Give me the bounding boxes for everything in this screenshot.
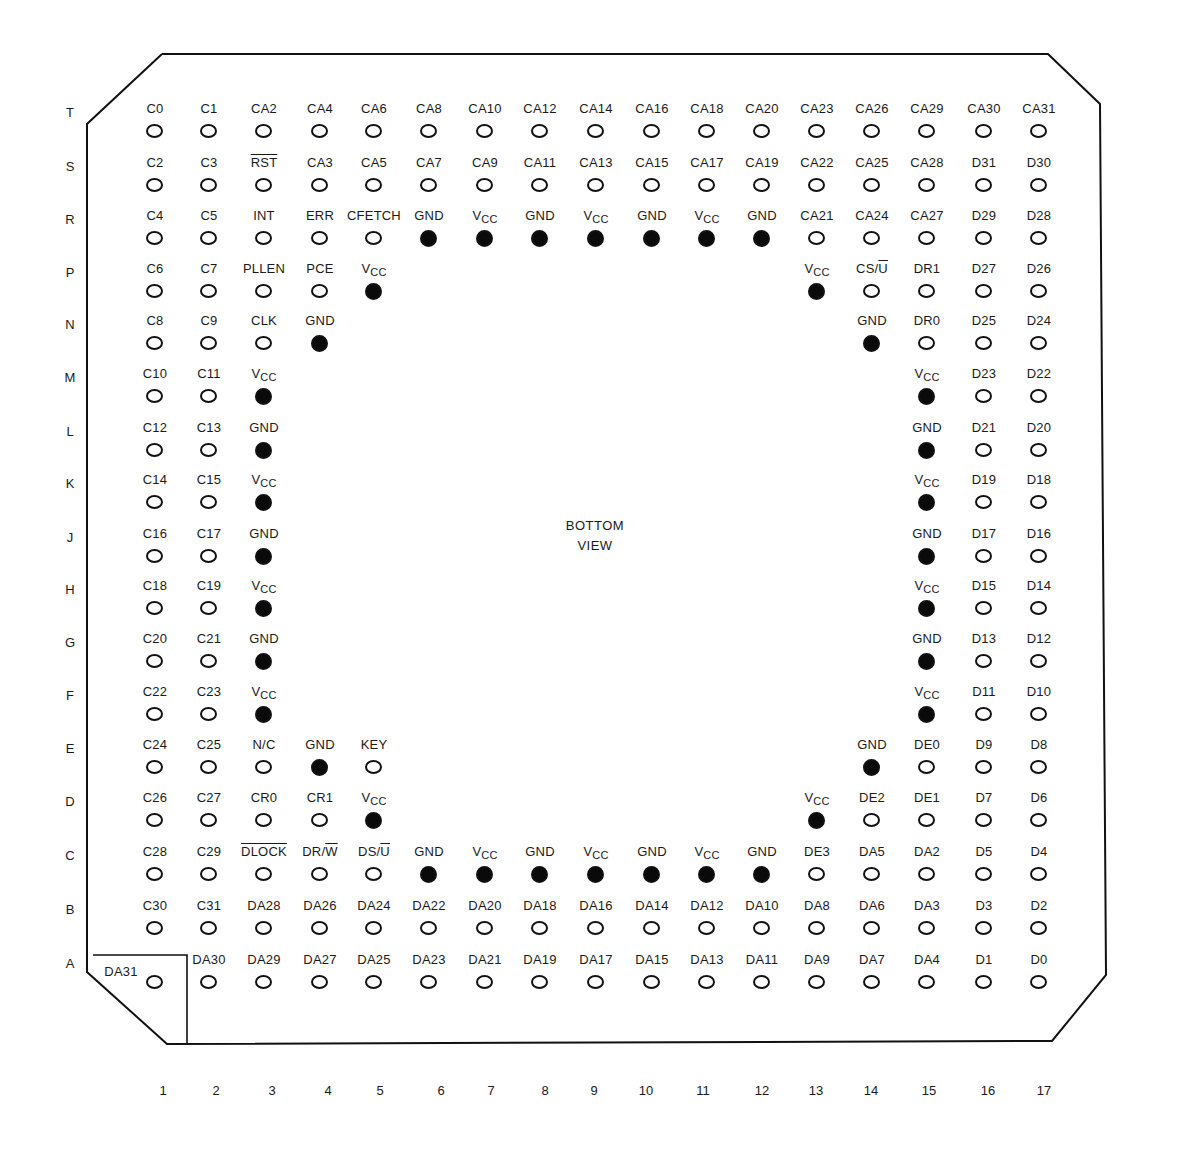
pin-f3: VCC: [236, 684, 292, 734]
pin-p3: PLLEN: [236, 261, 292, 311]
open-circle-icon: [753, 124, 770, 138]
pin-h16: D15: [956, 578, 1012, 628]
pin-k17: D18: [1011, 472, 1067, 522]
pin-j15: GND: [899, 526, 955, 576]
pin-h17: D14: [1011, 578, 1067, 628]
pin-s14: CA25: [844, 155, 900, 205]
pin-e4: GND: [292, 737, 348, 787]
open-circle-icon: [420, 178, 437, 192]
pin-label: CA14: [568, 101, 624, 117]
pin-label: CR0: [236, 790, 292, 806]
pin-d13: VCC: [789, 790, 845, 840]
pin-r11: VCC: [679, 208, 735, 258]
pin-label: C4: [127, 208, 183, 224]
row-label-a: A: [60, 956, 80, 971]
open-circle-icon: [311, 284, 328, 298]
pin-label: VCC: [789, 261, 845, 280]
pin-c12: GND: [734, 844, 790, 894]
pin-c15: DA2: [899, 844, 955, 894]
open-circle-icon: [200, 707, 217, 721]
pin-label: CA18: [679, 101, 735, 117]
pin-label: VCC: [457, 208, 513, 227]
open-circle-icon: [1030, 654, 1047, 668]
open-circle-icon: [200, 124, 217, 138]
pin-a12: DA11: [734, 952, 790, 1002]
open-circle-icon: [1030, 124, 1047, 138]
open-circle-icon: [365, 178, 382, 192]
pin-r12: GND: [734, 208, 790, 258]
pin-d17: D6: [1011, 790, 1067, 840]
pin-f1: C22: [127, 684, 183, 734]
pin-label: GND: [734, 844, 790, 860]
open-circle-icon: [200, 601, 217, 615]
open-circle-icon: [975, 389, 992, 403]
pin-label: CA13: [568, 155, 624, 171]
pin-c10: GND: [624, 844, 680, 894]
pin-e15: DE0: [899, 737, 955, 787]
open-circle-icon: [643, 178, 660, 192]
pin-s12: CA19: [734, 155, 790, 205]
column-label-7: 7: [476, 1083, 506, 1098]
open-circle-icon: [863, 231, 880, 245]
filled-circle-icon: [365, 812, 382, 829]
pin-label: N/C: [236, 737, 292, 753]
pin-label: DA13: [679, 952, 735, 968]
pin-e16: D9: [956, 737, 1012, 787]
pin-label: CA17: [679, 155, 735, 171]
column-label-15: 15: [914, 1083, 944, 1098]
pin-label: DA12: [679, 898, 735, 914]
column-label-16: 16: [973, 1083, 1003, 1098]
pin-a14: DA7: [844, 952, 900, 1002]
pin-m1: C10: [127, 366, 183, 416]
open-circle-icon: [476, 124, 493, 138]
pin-n16: D25: [956, 313, 1012, 363]
pin-r9: VCC: [568, 208, 624, 258]
pin-label: D15: [956, 578, 1012, 594]
pin-j2: C17: [181, 526, 237, 576]
pin-label: C5: [181, 208, 237, 224]
pin-t2: C1: [181, 101, 237, 151]
pin-label: D4: [1011, 844, 1067, 860]
open-circle-icon: [698, 178, 715, 192]
open-circle-icon: [200, 389, 217, 403]
open-circle-icon: [698, 124, 715, 138]
pin-label: VCC: [899, 472, 955, 491]
open-circle-icon: [200, 443, 217, 457]
open-circle-icon: [146, 336, 163, 350]
column-label-1: 1: [148, 1083, 178, 1098]
pin-t17: CA31: [1011, 101, 1067, 151]
filled-circle-icon: [863, 759, 880, 776]
pin-label: DA30: [181, 952, 237, 968]
pin-r14: CA24: [844, 208, 900, 258]
column-label-5: 5: [365, 1083, 395, 1098]
pin-k1: C14: [127, 472, 183, 522]
pin-a1: DA31: [127, 952, 183, 1002]
pin-f2: C23: [181, 684, 237, 734]
pin-n3: CLK: [236, 313, 292, 363]
filled-circle-icon: [420, 866, 437, 883]
open-circle-icon: [1030, 549, 1047, 563]
pin-label: CA7: [401, 155, 457, 171]
open-circle-icon: [146, 867, 163, 881]
open-circle-icon: [1030, 389, 1047, 403]
open-circle-icon: [200, 921, 217, 935]
open-circle-icon: [863, 124, 880, 138]
open-circle-icon: [420, 124, 437, 138]
pin-b6: DA22: [401, 898, 457, 948]
pin-b3: DA28: [236, 898, 292, 948]
pin-label: CA22: [789, 155, 845, 171]
pin-a6: DA23: [401, 952, 457, 1002]
pin-label: D26: [1011, 261, 1067, 277]
filled-circle-icon: [808, 812, 825, 829]
pin-a4: DA27: [292, 952, 348, 1002]
column-label-17: 17: [1029, 1083, 1059, 1098]
filled-circle-icon: [476, 866, 493, 883]
pin-label: CLK: [236, 313, 292, 329]
filled-circle-icon: [808, 283, 825, 300]
pin-label: CA21: [789, 208, 845, 224]
pin-label: GND: [236, 526, 292, 542]
pin-label: CA12: [512, 101, 568, 117]
pin-label: C0: [127, 101, 183, 117]
pin-label: DA8: [789, 898, 845, 914]
open-circle-icon: [975, 654, 992, 668]
